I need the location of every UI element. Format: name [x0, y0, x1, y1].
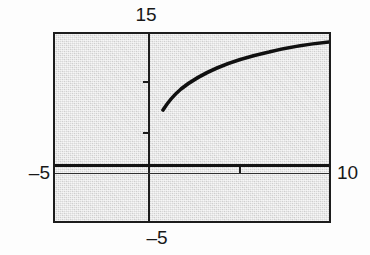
- x-axis-min-label: –5: [18, 163, 50, 182]
- data-curve: [163, 42, 329, 110]
- plot-panel: [53, 32, 331, 223]
- figure-root: 15 –5 10 –5: [0, 0, 370, 255]
- curve-layer: [55, 34, 329, 221]
- x-axis-max-label: 10: [337, 163, 370, 182]
- y-axis-max-label: 15: [126, 5, 166, 24]
- y-axis-min-label: –5: [137, 228, 177, 247]
